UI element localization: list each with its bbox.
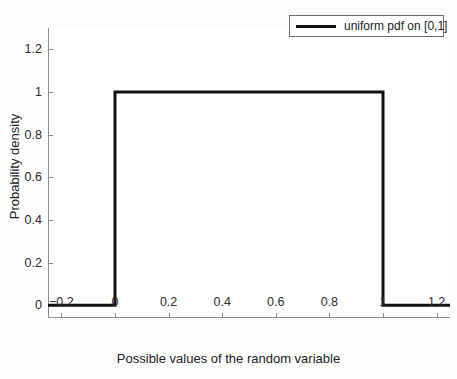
x-tick [437, 313, 438, 318]
x-tick [169, 313, 170, 318]
y-tick-label: 0.2 [25, 257, 42, 270]
figure-canvas: 00.20.40.60.811.2 −0.200.20.40.60.811.2 … [0, 0, 457, 379]
y-tick-label: 1.2 [25, 43, 42, 56]
x-tick-label: 0.8 [321, 296, 338, 309]
legend-box: uniform pdf on [0,1] [289, 15, 444, 37]
y-axis-line [48, 28, 49, 318]
legend-line-swatch [296, 25, 336, 28]
x-tick [61, 313, 62, 318]
x-tick-label: 0.6 [267, 296, 284, 309]
x-tick [329, 313, 330, 318]
x-axis-line [48, 317, 450, 318]
x-tick-label: 1 [380, 296, 387, 309]
y-tick [48, 220, 53, 221]
y-tick-label: 0.6 [25, 171, 42, 184]
y-axis-title: Probability density [8, 87, 21, 247]
x-tick [222, 313, 223, 318]
x-axis-title: Possible values of the random variable [0, 352, 457, 365]
x-tick-label: 1.2 [428, 296, 445, 309]
y-tick-label: 1 [35, 86, 42, 99]
y-tick [48, 177, 53, 178]
legend-entry-label: uniform pdf on [0,1] [344, 20, 447, 32]
x-tick [115, 313, 116, 318]
x-tick-label: 0.4 [213, 296, 230, 309]
y-tick [48, 263, 53, 264]
y-tick [48, 92, 53, 93]
x-tick-label: 0.2 [160, 296, 177, 309]
y-tick-label: 0.8 [25, 129, 42, 142]
x-tick-label: 0 [112, 296, 119, 309]
y-tick [48, 49, 53, 50]
x-tick [276, 313, 277, 318]
uniform-pdf-curve [48, 28, 450, 318]
x-tick-label: −0.2 [49, 296, 74, 309]
y-tick [48, 135, 53, 136]
y-tick-label: 0.4 [25, 214, 42, 227]
plot-area [48, 28, 450, 318]
x-tick [383, 313, 384, 318]
y-tick-label: 0 [35, 299, 42, 312]
